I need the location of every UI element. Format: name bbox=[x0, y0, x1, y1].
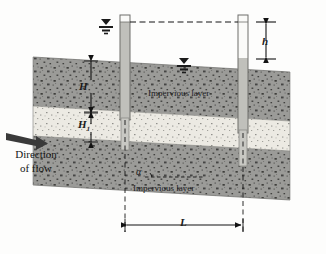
soil-profile bbox=[33, 57, 290, 200]
dimension-label-H1: H1 bbox=[78, 118, 90, 133]
angle-label-alpha: α bbox=[136, 166, 141, 178]
flow-direction-label-line1: Direction bbox=[5, 148, 67, 161]
impervious-layer-lower-label: Impervious layer bbox=[133, 183, 194, 193]
water-table-icon-left bbox=[99, 19, 113, 34]
dimension-label-H: H bbox=[79, 80, 88, 93]
flow-direction-label-line2: of flow bbox=[5, 162, 67, 175]
impervious-layer-upper-label: Impervious layer bbox=[148, 88, 209, 98]
diagram-canvas bbox=[0, 0, 326, 254]
dimension-label-h: h bbox=[262, 35, 268, 48]
dimension-label-L: L bbox=[180, 216, 187, 229]
seepage-diagram-figure: H H1 h L α Impervious layer Impervious l… bbox=[0, 0, 326, 254]
